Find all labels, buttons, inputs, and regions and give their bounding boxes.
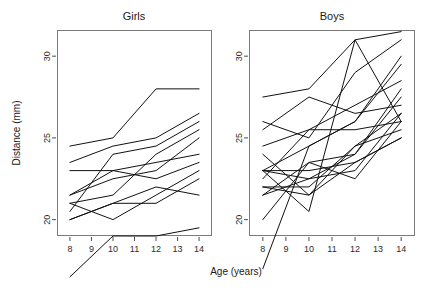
y-tick-label: 20 — [234, 215, 244, 225]
series-line — [263, 138, 401, 171]
series-line — [70, 154, 199, 170]
y-tick-label: 20 — [42, 215, 52, 225]
y-axis-title: Distance (mm) — [11, 100, 22, 165]
series-line — [70, 113, 199, 162]
x-tick-label: 9 — [89, 244, 94, 254]
x-tick-label: 10 — [108, 244, 118, 254]
panel-girls: Girls 891011121314 202530 — [42, 10, 212, 277]
x-tick-label: 11 — [130, 244, 139, 254]
x-tick-label: 12 — [350, 244, 360, 254]
y-tick-label: 25 — [234, 133, 244, 143]
x-axis-title: Age (years) — [210, 266, 262, 277]
y-axis-boys: 202530 — [234, 51, 248, 225]
x-tick-label: 8 — [67, 244, 72, 254]
y-tick-label: 25 — [42, 133, 52, 143]
panel-frame-girls — [58, 31, 212, 236]
x-tick-label: 12 — [151, 244, 161, 254]
series-line — [263, 56, 401, 170]
panel-boys: Boys 891011121314 202530 — [234, 10, 415, 269]
trellis-plot: Girls 891011121314 202530 Boys 891011121… — [0, 0, 437, 294]
x-tick-label: 10 — [304, 244, 314, 254]
panel-title-boys: Boys — [320, 10, 345, 22]
y-tick-label: 30 — [42, 51, 52, 61]
y-tick-label: 30 — [234, 51, 244, 61]
chart-container: Girls 891011121314 202530 Boys 891011121… — [0, 0, 437, 294]
x-tick-label: 13 — [173, 244, 183, 254]
x-axis-girls: 891011121314 — [67, 237, 204, 254]
series-line — [263, 32, 401, 97]
x-tick-label: 11 — [327, 244, 336, 254]
x-tick-label: 13 — [373, 244, 383, 254]
series-group-boys — [263, 32, 401, 269]
x-axis-boys: 891011121314 — [260, 237, 406, 254]
x-tick-label: 9 — [283, 244, 288, 254]
panel-title-girls: Girls — [123, 10, 146, 22]
series-line — [70, 89, 199, 146]
x-tick-label: 8 — [260, 244, 265, 254]
x-tick-label: 14 — [194, 244, 204, 254]
x-tick-label: 14 — [396, 244, 406, 254]
y-axis-girls: 202530 — [42, 51, 56, 225]
